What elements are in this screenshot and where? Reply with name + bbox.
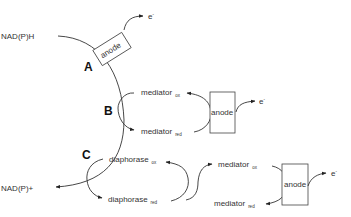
route-a: A anode e- <box>84 12 154 74</box>
mediator-red-arrow <box>118 108 134 130</box>
diaphorase-red-arrow <box>87 180 102 198</box>
product-text: NAD(P)+ <box>1 184 34 193</box>
electron-arrow-b <box>236 101 255 112</box>
electron-label-c: e- <box>331 169 337 178</box>
mediator-red-label-c: mediatorred <box>214 199 255 209</box>
mediator-c-ox-arrow <box>198 164 212 182</box>
mediator-ox-label-b: mediatorox <box>141 88 181 98</box>
electron-label-b: e- <box>259 97 265 106</box>
anode-a: anode <box>93 32 131 65</box>
route-label-c: C <box>82 148 91 162</box>
mediator-ox-label-c: mediatorox <box>218 160 258 170</box>
mediator-ox-connector <box>118 93 134 108</box>
diaphorase-ox-label: diaphoraseox <box>109 155 157 165</box>
anode-label-b: anode <box>211 108 234 117</box>
substrate-label: NAD(P)H <box>1 32 35 41</box>
electron-label-a: e- <box>148 12 154 21</box>
route-label-a: A <box>84 60 93 74</box>
mediator-red-label-b: mediatorred <box>141 127 182 137</box>
electron-arrow-c <box>308 173 326 186</box>
route-label-b: B <box>104 104 113 118</box>
mediator-ox-return-arrow <box>187 93 211 112</box>
route-b: B mediatorox mediatorred anode e- <box>104 88 265 137</box>
bioanode-diagram: NAD(P)H NAD(P)+ A anode e- B mediatorox … <box>0 0 351 217</box>
diaphorase-return-connector <box>171 178 188 201</box>
anode-label-c: anode <box>284 180 307 189</box>
route-c: C diaphoraseox diaphorasered mediatorox … <box>82 148 337 209</box>
diaphorase-ox-return-arrow <box>166 162 188 178</box>
electron-arrow-a <box>124 16 143 30</box>
product-label: NAD(P)+ <box>1 184 34 193</box>
diaphorase-red-label: diaphorasered <box>108 195 158 205</box>
mediator-anode-connector <box>194 112 211 132</box>
